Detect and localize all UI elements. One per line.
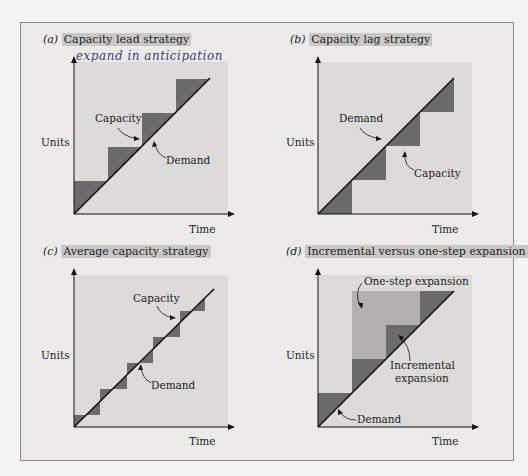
y-axis-label: Units <box>286 349 315 361</box>
expansion-label: expansion <box>395 372 449 384</box>
x-axis-label: Time <box>432 435 459 447</box>
incremental-label: Incremental <box>390 359 455 371</box>
demand-label: Demand <box>357 413 402 425</box>
one-step-expansion-label: One-step expansion <box>364 275 469 287</box>
